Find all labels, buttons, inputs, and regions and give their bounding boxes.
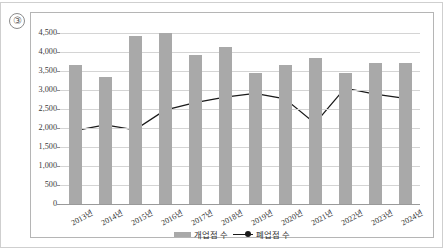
item-number-badge: ③ xyxy=(9,13,25,29)
bar xyxy=(189,55,202,204)
legend-label-line: 폐업점 수 xyxy=(256,228,290,240)
legend-label-bar: 개업점 수 xyxy=(194,228,228,240)
legend-bar-swatch-icon xyxy=(174,232,191,237)
gridline xyxy=(60,90,420,91)
y-axis-tick-label: 2,500 xyxy=(39,105,57,113)
plot-wrapper: 05001,0001,5002,0002,5003,0003,5004,0004… xyxy=(31,13,433,237)
y-axis-tick-label: 3,500 xyxy=(39,67,57,75)
bar xyxy=(69,65,82,204)
legend-entry-line: 폐업점 수 xyxy=(233,228,290,240)
y-axis-tick-mark xyxy=(57,147,60,148)
y-axis-tick-mark xyxy=(57,109,60,110)
gridline xyxy=(60,109,420,110)
bar xyxy=(219,47,232,204)
bar xyxy=(249,73,262,204)
gridline xyxy=(60,166,420,167)
y-axis-tick-labels: 05001,0001,5002,0002,5003,0003,5004,0004… xyxy=(31,33,57,204)
y-axis-tick-mark xyxy=(57,204,60,205)
chart-panel: 05001,0001,5002,0002,5003,0003,5004,0004… xyxy=(30,12,434,238)
legend-entry-bar: 개업점 수 xyxy=(174,228,228,240)
gridline xyxy=(60,33,420,34)
bar xyxy=(99,77,112,204)
y-axis-tick-mark xyxy=(57,90,60,91)
bar xyxy=(339,73,352,204)
bar xyxy=(159,33,172,204)
y-axis-tick-label: 500 xyxy=(45,181,57,189)
y-axis-tick-mark xyxy=(57,185,60,186)
y-axis-tick-label: 4,000 xyxy=(39,48,57,56)
y-axis-tick-mark xyxy=(57,33,60,34)
y-axis-tick-mark xyxy=(57,128,60,129)
y-axis-tick-mark xyxy=(57,71,60,72)
plot-area xyxy=(60,33,420,204)
y-axis-tick-label: 2,000 xyxy=(39,124,57,132)
gridline xyxy=(60,71,420,72)
bar xyxy=(309,58,322,204)
line-series-svg xyxy=(60,33,420,204)
bar xyxy=(399,63,412,204)
figure-container: ③ 05001,0001,5002,0002,5003,0003,5004,00… xyxy=(0,0,445,251)
bar xyxy=(129,36,142,204)
y-axis-tick-label: 1,000 xyxy=(39,162,57,170)
y-axis-tick-label: 4,500 xyxy=(39,29,57,37)
legend-line-marker-icon xyxy=(233,230,253,238)
gridline xyxy=(60,52,420,53)
gridline xyxy=(60,185,420,186)
y-axis-tick-label: 1,500 xyxy=(39,143,57,151)
y-axis-tick-mark xyxy=(57,166,60,167)
x-axis-tick-labels: 2013년2014년2015년2016년2017년2018년2019년2020년… xyxy=(60,205,420,227)
y-axis-tick-label: 3,000 xyxy=(39,86,57,94)
bar xyxy=(369,63,382,204)
gridline xyxy=(60,147,420,148)
bar xyxy=(279,65,292,204)
chart-legend: 개업점 수 폐업점 수 xyxy=(31,227,433,241)
y-axis-tick-mark xyxy=(57,52,60,53)
gridline xyxy=(60,128,420,129)
